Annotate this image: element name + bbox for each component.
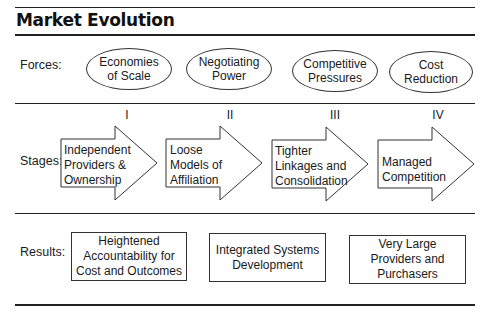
results-label: Results: bbox=[20, 245, 65, 259]
result-accountability: Heightened Accountability for Cost and O… bbox=[71, 232, 187, 281]
stage-text-4: Managed Competition bbox=[382, 155, 446, 185]
result-integrated-systems: Integrated Systems Development bbox=[209, 233, 326, 282]
stage-text-3: Tighter Linkages and Consolidation bbox=[275, 144, 348, 189]
stage-text-2: Loose Models of Affiliation bbox=[170, 143, 222, 188]
stage-text-1: Independent Providers & Ownership bbox=[64, 143, 131, 188]
result-very-large-providers: Very Large Providers and Purchasers bbox=[349, 235, 466, 284]
